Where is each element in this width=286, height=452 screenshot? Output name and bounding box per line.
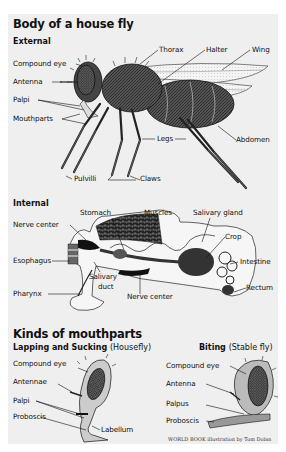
label-lapping-proboscis: Proboscis <box>13 412 46 421</box>
internal-heading: Internal <box>13 199 49 208</box>
label-pharynx: Pharynx <box>13 289 42 298</box>
label-mouthparts: Mouthparts <box>13 114 53 123</box>
external-fly-drawing <box>60 55 268 188</box>
label-rectum: Rectum <box>246 283 273 292</box>
label-legs: Legs <box>157 134 173 143</box>
label-biting-palpus: Palpus <box>166 399 189 408</box>
mouthparts-heading: Kinds of mouthparts <box>13 327 142 341</box>
label-stomach: Stomach <box>80 208 111 217</box>
external-heading: External <box>13 37 51 46</box>
diagram-title: Body of a house fly <box>13 17 134 31</box>
label-thorax: Thorax <box>159 45 183 54</box>
label-lapping-compound-eye: Compound eye <box>13 359 66 368</box>
label-lapping-antennae: Antennae <box>13 377 47 386</box>
label-claws: Claws <box>140 174 161 183</box>
label-crop: Crop <box>225 232 241 241</box>
label-nerve-center-top: Nerve center <box>13 220 59 229</box>
label-salivary-gland: Salivary gland <box>193 208 243 217</box>
label-pulvilli: Pulvilli <box>74 174 96 183</box>
label-biting-proboscis: Proboscis <box>166 416 199 425</box>
label-wing: Wing <box>252 45 270 54</box>
label-antenna: Antenna <box>13 77 43 86</box>
label-palpi: Palpi <box>13 95 29 104</box>
label-salivary-duct-2: duct <box>98 282 114 291</box>
label-lapping-labellum: Labellum <box>101 425 133 434</box>
label-salivary-duct-1: Salivary <box>89 272 117 281</box>
label-muscles: Muscles <box>144 208 172 217</box>
lapping-heading: Lapping and Sucking (Housefly) <box>13 343 151 352</box>
label-abdomen: Abdomen <box>236 135 270 144</box>
label-intestine: Intestine <box>240 257 271 266</box>
label-biting-antenna: Antenna <box>166 379 196 388</box>
label-lapping-palpi: Palpi <box>13 396 29 405</box>
illustration-credit: WORLD BOOK illustration by Tom Dolan <box>168 436 271 442</box>
label-halter: Halter <box>206 45 227 54</box>
biting-heading: Biting (Stable fly) <box>199 343 273 352</box>
label-esophagus: Esophagus <box>13 256 51 265</box>
label-compound-eye: Compound eye <box>13 59 66 68</box>
label-biting-compound-eye: Compound eye <box>166 361 219 370</box>
label-nerve-center-bottom: Nerve center <box>127 292 173 301</box>
